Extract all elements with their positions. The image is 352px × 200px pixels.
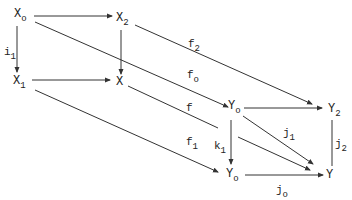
node-x0: Xo (14, 8, 27, 20)
node-y0-top: Yo (228, 100, 241, 112)
arrow-f0 (35, 22, 228, 107)
node-x2: X2 (116, 12, 129, 24)
arrow-j1 (243, 116, 313, 164)
node-y2: Y2 (328, 103, 341, 115)
arrow-f-part1 (128, 86, 218, 128)
arrow-f2 (135, 25, 312, 104)
node-x1: X1 (13, 75, 26, 87)
label-f0: fo (187, 69, 199, 81)
label-i1: i1 (4, 46, 16, 58)
label-j1: j1 (283, 127, 295, 139)
label-f: f (186, 102, 193, 114)
label-f1: f1 (186, 136, 198, 148)
label-j2: j2 (335, 138, 347, 150)
label-j0: jo (276, 184, 288, 196)
commutative-diagram: Xo X2 X1 X Yo Y2 Yo Y i1 f2 fo f f1 k1 j… (0, 0, 352, 200)
node-x: X (116, 76, 123, 88)
label-k1: k1 (214, 140, 226, 152)
label-f2: f2 (188, 38, 200, 50)
node-y: Y (326, 169, 333, 181)
diagram-arrows (0, 0, 352, 200)
arrow-f-part2 (238, 137, 310, 170)
node-y0-bottom: Yo (226, 168, 239, 180)
